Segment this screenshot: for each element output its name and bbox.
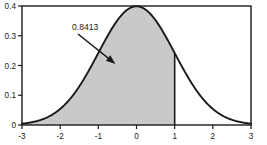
y-tick-label: 0.3 xyxy=(5,32,17,41)
y-axis-ticks: 00.10.20.30.4 xyxy=(5,2,22,130)
y-tick-label: 0 xyxy=(11,121,16,130)
x-tick-label: -1 xyxy=(95,132,103,141)
x-tick-label: 3 xyxy=(249,132,254,141)
x-tick-label: -3 xyxy=(18,132,26,141)
x-tick-label: 2 xyxy=(211,132,216,141)
y-tick-label: 0.2 xyxy=(5,62,17,71)
x-tick-label: 0 xyxy=(134,132,139,141)
x-tick-label: 1 xyxy=(172,132,177,141)
y-tick-label: 0.4 xyxy=(5,2,17,11)
x-tick-label: -2 xyxy=(57,132,65,141)
x-axis-ticks: -3-2-10123 xyxy=(18,125,253,141)
area-value-annotation: 0.8413 xyxy=(72,22,99,32)
normal-distribution-chart: -3-2-10123 00.10.20.30.4 0.8413 xyxy=(0,0,267,145)
y-tick-label: 0.1 xyxy=(5,91,17,100)
chart-canvas: -3-2-10123 00.10.20.30.4 0.8413 xyxy=(0,0,267,145)
